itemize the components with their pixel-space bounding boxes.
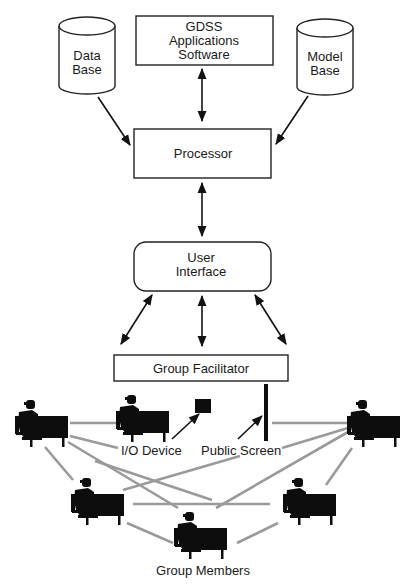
model-base-label-1: Model — [307, 49, 343, 64]
model-base-cylinder: Model Base — [297, 19, 353, 95]
gdss-label-2: Applications — [169, 33, 240, 48]
arrow-ui-left-members — [121, 295, 152, 344]
member-silhouette-bottom — [174, 512, 227, 559]
public-screen-label: Public Screen — [201, 443, 281, 458]
io-device-pointer-arrow — [172, 414, 199, 439]
gdss-applications-software-box: GDSS Applications Software — [136, 16, 273, 65]
flow-arrows — [98, 69, 308, 346]
arrow-modelbase-to-processor — [276, 96, 308, 144]
gdss-diagram: Data Base GDSS Applications Software Mod… — [0, 0, 418, 586]
user-interface-label-1: User — [187, 250, 215, 265]
io-device-terminal — [195, 399, 211, 413]
public-screen-pointer-arrow — [238, 416, 262, 439]
group-facilitator-label: Group Facilitator — [153, 361, 250, 376]
data-base-cylinder: Data Base — [59, 17, 115, 94]
member-silhouette-mid-right — [283, 478, 336, 525]
io-device-label: I/O Device — [121, 443, 182, 458]
member-silhouette-top-left — [15, 400, 68, 447]
model-base-label-2: Base — [310, 63, 340, 78]
gdss-label-1: GDSS — [186, 19, 223, 34]
data-base-label-2: Base — [72, 62, 102, 77]
member-network-links — [45, 423, 352, 543]
processor-label: Processor — [174, 146, 233, 161]
member-silhouette-io-device — [116, 395, 169, 442]
processor-box: Processor — [134, 129, 271, 178]
user-interface-box: User Interface — [134, 242, 271, 291]
user-interface-label-2: Interface — [176, 264, 227, 279]
member-silhouette-top-right — [347, 400, 400, 447]
gdss-label-3: Software — [178, 47, 229, 62]
public-screen — [264, 384, 268, 441]
arrow-ui-right-members — [255, 295, 286, 344]
group-members — [15, 395, 400, 559]
data-base-label-1: Data — [73, 48, 101, 63]
arrow-database-to-processor — [98, 97, 130, 145]
group-members-label: Group Members — [156, 563, 250, 578]
member-silhouette-mid-left — [71, 478, 124, 525]
group-facilitator-box: Group Facilitator — [114, 355, 288, 381]
